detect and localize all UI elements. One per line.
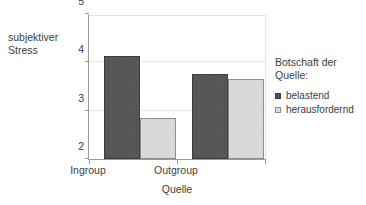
x-tick-label-ingroup: Ingroup	[43, 164, 133, 176]
legend-label-herausfordernd: herausfordernd	[286, 104, 354, 115]
x-axis-title: Quelle	[88, 183, 266, 195]
y-tick-label-5: 5	[63, 0, 89, 7]
legend-item-belastend: belastend	[275, 90, 365, 101]
x-tick-label-outgroup: Outgroup	[131, 164, 221, 176]
y-tick-label-4: 4	[63, 43, 89, 55]
bar-outgroup-herausfordernd	[228, 79, 264, 159]
x-tick-mark-end	[265, 159, 266, 164]
legend-title: Botschaft der Quelle:	[275, 56, 365, 82]
legend-label-belastend: belastend	[286, 90, 329, 101]
y-tick-mark-4	[85, 61, 89, 62]
y-tick-mark-5	[85, 13, 89, 14]
dark-square-marker-icon	[275, 93, 281, 99]
bar-chart-figure: subjektiver Stress 2 3 4 5 Ingroup Outgr…	[0, 0, 366, 205]
bar-outgroup-belastend	[192, 74, 228, 159]
plot-area: 2 3 4 5	[88, 15, 265, 160]
y-tick-mark-3	[85, 110, 89, 111]
y-tick-label-2: 2	[63, 140, 89, 152]
legend: Botschaft der Quelle: belastend herausfo…	[275, 56, 365, 118]
plot-right-border	[265, 15, 266, 160]
bar-ingroup-herausfordernd	[140, 118, 176, 159]
bar-ingroup-belastend	[104, 56, 140, 159]
y-tick-label-3: 3	[63, 92, 89, 104]
light-square-marker-icon	[275, 107, 281, 113]
legend-item-herausfordernd: herausfordernd	[275, 104, 365, 115]
